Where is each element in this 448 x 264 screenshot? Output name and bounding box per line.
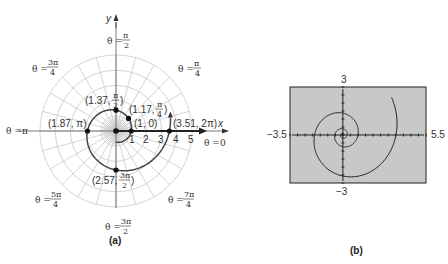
svg-text:2: 2 xyxy=(122,181,127,190)
tick-5: 5 xyxy=(188,134,194,145)
spiral-point xyxy=(85,128,90,133)
svg-text:): ) xyxy=(164,104,167,115)
tick-4: 4 xyxy=(173,134,179,145)
angle-label-pi: θ = π xyxy=(6,126,28,136)
svg-text:π: π xyxy=(194,59,199,68)
svg-text:θ =: θ = xyxy=(105,222,121,232)
svg-text:π: π xyxy=(123,31,128,40)
svg-text:): ) xyxy=(120,95,123,106)
point-label-1.37: (1.37, π 2 ) xyxy=(85,91,123,110)
angle-label-3pi-2: θ = 3π 2 xyxy=(105,217,131,236)
svg-text:π: π xyxy=(157,100,162,109)
tick-1: 1 xyxy=(129,134,135,145)
y-axis-label: y xyxy=(105,13,112,24)
svg-text:π: π xyxy=(113,91,118,100)
angle-label-3pi-4: θ = 3π 4 xyxy=(32,58,58,77)
angle-label-0: θ = 0 xyxy=(204,138,226,148)
spiral-arrow-icon xyxy=(168,112,173,118)
svg-text:4: 4 xyxy=(50,68,55,77)
point-label-1.87-pi: (1.87, π) xyxy=(48,118,87,129)
xmax-label: 5.5 xyxy=(431,129,445,140)
svg-text:θ =: θ = xyxy=(178,64,194,74)
svg-text:4: 4 xyxy=(157,110,162,119)
x-axis-arrow-icon xyxy=(222,129,229,134)
angle-label-pi-4: θ = π 4 xyxy=(178,59,201,78)
svg-text:θ =: θ = xyxy=(204,138,220,148)
svg-text:θ =: θ = xyxy=(107,36,123,46)
svg-text:7π: 7π xyxy=(184,190,194,199)
caption-a: (a) xyxy=(109,235,121,246)
svg-text:3π: 3π xyxy=(48,58,58,67)
panel-b: 3 −3 −3.5 5.5 (b) xyxy=(267,74,445,256)
spiral-point xyxy=(113,167,118,172)
svg-text:θ =: θ = xyxy=(168,195,184,205)
x-axis-label: x xyxy=(217,118,224,129)
svg-text:4: 4 xyxy=(53,200,58,209)
svg-text:3π: 3π xyxy=(121,217,131,226)
svg-text:π: π xyxy=(22,126,28,136)
spiral-point xyxy=(129,128,134,133)
tick-2: 2 xyxy=(143,134,149,145)
svg-text:3π: 3π xyxy=(120,171,130,180)
figure: y x 1 2 3 4 5 θ = π 2 θ = 3π 4 θ = π 4 θ… xyxy=(0,0,448,264)
svg-text:4: 4 xyxy=(195,69,200,78)
xmin-label: −3.5 xyxy=(267,129,287,140)
panel-a: y x 1 2 3 4 5 θ = π 2 θ = 3π 4 θ = π 4 θ… xyxy=(6,13,229,246)
svg-text:(1.17,: (1.17, xyxy=(129,104,155,115)
point-label-1-0: (1, 0) xyxy=(134,118,157,129)
svg-text:(1.37,: (1.37, xyxy=(85,95,111,106)
svg-text:θ =: θ = xyxy=(32,64,48,74)
y-axis-arrow-icon xyxy=(114,14,119,21)
point-label-1.17: (1.17, π 4 ) xyxy=(129,100,167,119)
angle-label-5pi-4: θ = 5π 4 xyxy=(35,190,61,209)
angle-label-pi-2: θ = π 2 xyxy=(107,31,130,50)
svg-text:2: 2 xyxy=(113,101,118,110)
point-label-2.57: (2.57, 3π 2 ) xyxy=(92,171,134,190)
svg-text:4: 4 xyxy=(186,200,191,209)
svg-text:5π: 5π xyxy=(51,190,61,199)
caption-b: (b) xyxy=(350,245,363,256)
angle-label-7pi-4: θ = 7π 4 xyxy=(168,190,194,209)
ymax-label: 3 xyxy=(341,74,347,85)
svg-text:0: 0 xyxy=(220,138,226,148)
point-label-3.51-2pi: (3.51, 2π) xyxy=(173,118,217,129)
tick-3: 3 xyxy=(158,134,164,145)
ymin-label: −3 xyxy=(336,186,348,197)
svg-text:2: 2 xyxy=(123,227,128,236)
spiral-point xyxy=(167,128,172,133)
svg-text:2: 2 xyxy=(124,41,129,50)
pole-point xyxy=(113,128,119,134)
svg-text:θ =: θ = xyxy=(6,126,22,136)
svg-text:θ =: θ = xyxy=(35,195,51,205)
svg-text:(2.57,: (2.57, xyxy=(92,175,118,186)
spiral-point xyxy=(126,116,131,121)
svg-text:): ) xyxy=(131,175,134,186)
